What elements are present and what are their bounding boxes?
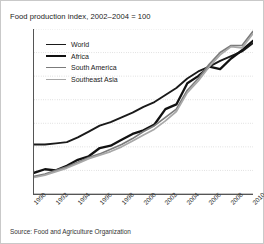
- legend-swatch-south-america: [46, 67, 66, 68]
- chart-legend: World Africa South America Southeast Asi…: [46, 39, 118, 85]
- legend-item: South America: [46, 62, 118, 74]
- legend-label-world: World: [71, 41, 89, 48]
- legend-item: Southeast Asia: [46, 74, 118, 86]
- legend-swatch-africa: [46, 55, 66, 57]
- legend-item: World: [46, 39, 118, 51]
- legend-swatch-southeast-asia: [46, 79, 66, 80]
- legend-label-africa: Africa: [71, 53, 89, 60]
- legend-label-southeast-asia: Southeast Asia: [71, 76, 118, 83]
- chart-title: Food production index, 2002–2004 = 100: [10, 12, 151, 21]
- source-note: Source: Food and Agriculture Organizatio…: [10, 228, 131, 235]
- legend-label-south-america: South America: [71, 64, 117, 71]
- plot-area: 5060708090100110120 19901992199419961998…: [34, 29, 253, 194]
- legend-item: Africa: [46, 51, 118, 63]
- chart-figure: Food production index, 2002–2004 = 100 5…: [0, 0, 264, 244]
- legend-swatch-world: [46, 44, 66, 45]
